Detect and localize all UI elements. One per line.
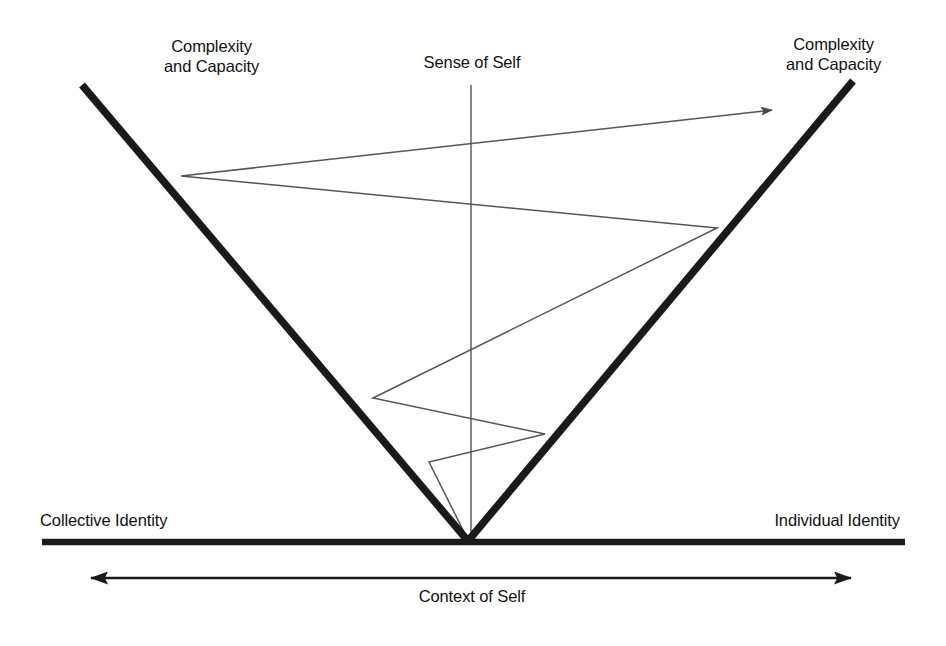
label-context-of-self: Context of Self [419, 586, 526, 606]
label-complexity-and-capacity-right: Complexity and Capacity [786, 34, 881, 74]
label-sense-of-self: Sense of Self [424, 52, 521, 72]
label-collective-identity: Collective Identity [40, 510, 167, 530]
diagram-svg [0, 0, 946, 646]
label-individual-identity: Individual Identity [774, 510, 900, 530]
label-complexity-and-capacity-left: Complexity and Capacity [164, 36, 259, 76]
development-spiral-path [181, 110, 772, 540]
v-arm-right [468, 81, 853, 541]
diagram-canvas-container: Complexity and Capacity Sense of Self Co… [0, 0, 946, 646]
v-arm-left [82, 85, 468, 541]
